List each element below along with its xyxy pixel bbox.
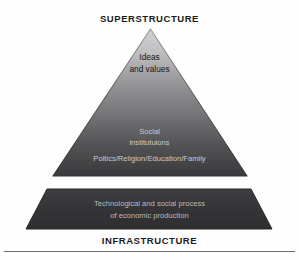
diagram-canvas [0, 0, 299, 260]
bottom-divider [4, 251, 295, 252]
pyramid-triangle [53, 29, 247, 176]
infrastructure-block [26, 189, 272, 229]
pyramid-diagram-figure: SUPERSTRUCTURE [0, 0, 299, 260]
infrastructure-heading: INFRASTRUCTURE [0, 235, 299, 246]
